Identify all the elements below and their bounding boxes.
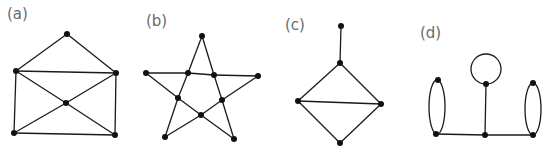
vertex bbox=[530, 80, 536, 86]
edge bbox=[16, 34, 67, 71]
edge bbox=[298, 101, 381, 104]
graph-c-edges bbox=[298, 26, 381, 143]
graph-figure: (a) (b) (c) (d) bbox=[0, 0, 550, 158]
vertex bbox=[338, 23, 344, 29]
graph-a-edges bbox=[14, 34, 116, 135]
vertex bbox=[211, 72, 217, 78]
edge bbox=[214, 75, 258, 76]
vertex bbox=[198, 112, 204, 118]
vertex bbox=[63, 100, 69, 106]
edge bbox=[165, 98, 178, 137]
edge bbox=[436, 134, 485, 135]
graph-c: (c) bbox=[285, 16, 384, 146]
vertex bbox=[64, 31, 70, 37]
vertex bbox=[483, 81, 489, 87]
edge bbox=[188, 36, 202, 73]
edge bbox=[222, 100, 234, 139]
vertex bbox=[143, 70, 149, 76]
edge bbox=[14, 133, 115, 135]
edge bbox=[178, 98, 201, 115]
vertex bbox=[255, 73, 261, 79]
graph-b: (b) bbox=[143, 12, 261, 142]
vertex bbox=[337, 140, 343, 146]
edge bbox=[201, 100, 222, 115]
edge bbox=[340, 26, 341, 63]
graph-d-edges bbox=[436, 84, 533, 135]
graph-c-vertices bbox=[295, 23, 384, 146]
edge bbox=[340, 63, 381, 104]
edge bbox=[222, 76, 258, 100]
edge bbox=[214, 75, 222, 100]
vertex bbox=[113, 70, 119, 76]
loop-edge bbox=[471, 54, 501, 84]
edge bbox=[14, 103, 66, 133]
graph-b-vertices bbox=[143, 33, 261, 142]
vertex bbox=[378, 101, 384, 107]
vertex bbox=[337, 60, 343, 66]
edge bbox=[201, 115, 234, 139]
edge bbox=[67, 34, 116, 73]
vertex bbox=[11, 130, 17, 136]
vertex bbox=[530, 132, 536, 138]
vertex bbox=[295, 98, 301, 104]
edge bbox=[298, 63, 340, 101]
edge bbox=[188, 73, 214, 75]
graph-a-vertices bbox=[11, 31, 119, 138]
edge bbox=[66, 103, 115, 135]
edge bbox=[146, 73, 178, 98]
vertex bbox=[199, 33, 205, 39]
edge bbox=[115, 73, 116, 135]
multi-edge bbox=[429, 80, 445, 134]
vertex bbox=[435, 77, 441, 83]
vertex bbox=[162, 134, 168, 140]
graph-a-label: (a) bbox=[7, 5, 28, 23]
graph-c-label: (c) bbox=[285, 16, 305, 34]
edge bbox=[66, 73, 116, 103]
edge bbox=[298, 101, 340, 143]
vertex bbox=[13, 68, 19, 74]
graph-a: (a) bbox=[7, 5, 119, 138]
edge bbox=[16, 71, 66, 103]
edge bbox=[485, 84, 486, 135]
edge bbox=[340, 104, 381, 143]
graph-b-label: (b) bbox=[146, 12, 167, 30]
edge bbox=[178, 73, 188, 98]
graph-d-label: (d) bbox=[420, 24, 441, 42]
vertex bbox=[112, 132, 118, 138]
graph-b-edges bbox=[146, 36, 258, 139]
edge bbox=[14, 71, 16, 133]
graph-d: (d) bbox=[420, 24, 541, 138]
edge bbox=[165, 115, 201, 137]
vertex bbox=[231, 136, 237, 142]
vertex bbox=[482, 132, 488, 138]
multi-edge bbox=[525, 83, 541, 135]
edge bbox=[202, 36, 214, 75]
edge bbox=[16, 71, 116, 73]
vertex bbox=[175, 95, 181, 101]
vertex bbox=[433, 131, 439, 137]
vertex bbox=[185, 70, 191, 76]
vertex bbox=[219, 97, 225, 103]
